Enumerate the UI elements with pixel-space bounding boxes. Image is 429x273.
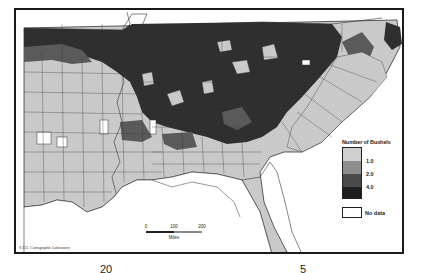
map-credit: S.T.U. Cartographic Laboratory xyxy=(19,245,70,250)
page-text-fragment: 20 xyxy=(100,263,112,273)
legend-break-3: 4.0 xyxy=(366,184,374,190)
light-patch xyxy=(142,72,154,86)
no-data-county xyxy=(302,60,310,65)
scale-bar: 0 100 200 Miles xyxy=(144,224,204,244)
no-data-county xyxy=(37,132,51,144)
no-data-label: No data xyxy=(365,210,385,216)
legend-swatch-class-1 xyxy=(343,148,361,161)
legend: Number of Bushels 1.0 2.0 4.0 No data xyxy=(342,139,404,199)
map-frame: Number of Bushels 1.0 2.0 4.0 No data 0 … xyxy=(14,8,404,254)
legend-ramp: 1.0 2.0 4.0 xyxy=(342,147,362,199)
no-data-swatch xyxy=(342,207,362,218)
scale-tick-0: 0 xyxy=(145,224,148,229)
legend-swatch-class-4 xyxy=(343,187,361,198)
scale-tick-200: 200 xyxy=(198,224,206,229)
no-data-county xyxy=(57,137,67,147)
legend-no-data: No data xyxy=(342,207,385,218)
legend-swatch-class-3 xyxy=(343,174,361,187)
legend-break-2: 2.0 xyxy=(366,171,374,177)
scale-tick-100: 100 xyxy=(170,224,178,229)
no-data-county xyxy=(100,120,108,134)
legend-swatch-class-2 xyxy=(343,161,361,174)
legend-title: Number of Bushels xyxy=(342,139,404,145)
legend-break-1: 1.0 xyxy=(366,158,374,164)
page-text-fragment: 5 xyxy=(300,263,306,273)
scale-bar-line xyxy=(146,231,202,233)
scale-units: Miles xyxy=(169,235,180,240)
